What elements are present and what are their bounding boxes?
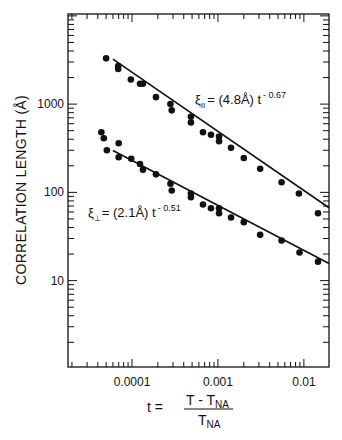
data-point-xi_perpendicular (257, 232, 264, 239)
annotation-xi-parallel: ξII= (4.8Å) t- 0.67 (195, 90, 286, 110)
annotation-xi-parallel-subscript: II (201, 101, 205, 110)
x-tick-label: 0.001 (203, 375, 233, 389)
data-point-xi_parallel (167, 101, 174, 108)
data-point-xi_perpendicular (241, 219, 248, 226)
data-point-xi_parallel (103, 55, 110, 62)
annotation-xi-perpendicular-subscript: ⊥ (94, 214, 101, 223)
x-tick-label: 0.0001 (114, 375, 151, 389)
x-axis-label-lhs: t = (147, 399, 163, 415)
annotation-xi-perpendicular-exponent: - 0.51 (158, 203, 181, 213)
data-point-xi_perpendicular (128, 156, 135, 163)
data-point-xi_parallel (257, 165, 264, 172)
x-axis-label-numerator-sub: NA (215, 399, 229, 410)
data-point-xi_perpendicular (296, 249, 303, 256)
y-axis-label: CORRELATION LENGTH (Å) (13, 95, 29, 285)
data-point-xi_perpendicular (104, 147, 111, 154)
data-point-xi_perpendicular (188, 194, 195, 201)
data-point-xi_parallel (188, 119, 195, 126)
data-point-xi_perpendicular (153, 171, 160, 178)
correlation-length-chart: 0.00010.0010.01 101001000 CORRELATION LE… (0, 0, 342, 440)
data-point-xi_parallel (315, 210, 322, 217)
data-point-xi_parallel (278, 179, 285, 186)
y-axis-ticks: 101001000 (37, 16, 329, 342)
data-point-xi_parallel (168, 107, 175, 114)
x-axis-label-denominator: TNA (198, 412, 221, 430)
data-point-xi_perpendicular (115, 140, 122, 147)
x-axis-label-numerator: T - TNA (186, 392, 229, 410)
annotation-xi-parallel-exponent: - 0.67 (263, 90, 286, 100)
data-point-xi_perpendicular (115, 154, 122, 161)
data-point-xi_parallel (128, 76, 135, 83)
data-point-xi_perpendicular (278, 237, 285, 244)
data-point-xi_perpendicular (168, 187, 175, 194)
x-tick-label: 0.01 (292, 375, 316, 389)
data-point-xi_perpendicular (101, 135, 108, 142)
y-tick-label: 1000 (37, 97, 64, 111)
data-point-xi_parallel (241, 155, 248, 162)
data-point-xi_perpendicular (167, 181, 174, 188)
data-point-xi_perpendicular (216, 210, 223, 217)
fit-lines (113, 59, 329, 263)
y-tick-label: 100 (44, 185, 64, 199)
x-axis-label: t = T - TNA TNA (147, 392, 233, 430)
data-point-xi_perpendicular (228, 214, 235, 221)
data-point-xi_parallel (200, 129, 207, 136)
x-axis-label-numerator-main: T - T (186, 392, 215, 408)
data-point-xi_perpendicular (137, 161, 144, 168)
data-point-xi_parallel (153, 94, 160, 101)
y-tick-label: 10 (51, 274, 65, 288)
data-point-xi_parallel (140, 80, 147, 87)
data-points (98, 55, 321, 265)
plot-frame (68, 14, 329, 367)
data-point-xi_parallel (208, 131, 215, 138)
annotation-xi-perpendicular: ξ⊥= (2.1Å) t- 0.51 (88, 203, 181, 223)
data-point-xi_parallel (216, 138, 223, 145)
x-axis-ticks: 0.00010.0010.01 (72, 14, 316, 389)
data-point-xi_perpendicular (200, 201, 207, 208)
data-point-xi_perpendicular (140, 167, 147, 174)
data-point-xi_perpendicular (315, 258, 322, 265)
fit-line-xi_parallel (113, 59, 329, 208)
plot-border (68, 14, 329, 367)
data-point-xi_perpendicular (208, 205, 215, 212)
data-point-xi_parallel (188, 113, 195, 120)
x-axis-label-denominator-sub: NA (207, 419, 221, 430)
data-point-xi_parallel (115, 66, 122, 73)
data-point-xi_perpendicular (98, 129, 105, 136)
data-point-xi_parallel (296, 190, 303, 197)
data-point-xi_parallel (228, 144, 235, 151)
annotation-xi-parallel-text: = (4.8Å) t (207, 92, 261, 107)
annotation-xi-perpendicular-text: = (2.1Å) t (102, 205, 156, 220)
